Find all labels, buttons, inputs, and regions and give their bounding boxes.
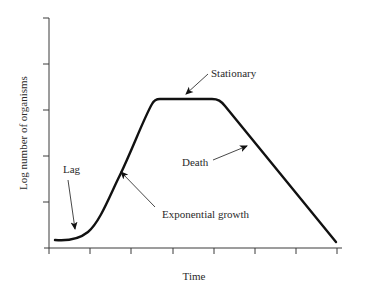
lag-label: Lag (63, 163, 81, 175)
exponential-growth-label: Exponential growth (162, 208, 250, 220)
growth-curve-chart: Log number of organisms Time Lag Exponen… (0, 0, 367, 298)
death-label: Death (182, 156, 209, 168)
x-axis (44, 248, 342, 254)
lag-arrow-icon (68, 180, 75, 229)
death-arrow-icon (213, 146, 247, 160)
x-axis-label: Time (183, 270, 206, 282)
y-axis-label: Log number of organisms (17, 76, 29, 190)
stationary-arrow-icon (186, 74, 208, 94)
y-axis (43, 18, 49, 254)
stationary-label: Stationary (211, 67, 257, 79)
exponential-arrow-icon (121, 172, 155, 207)
growth-curve-line (55, 99, 336, 242)
